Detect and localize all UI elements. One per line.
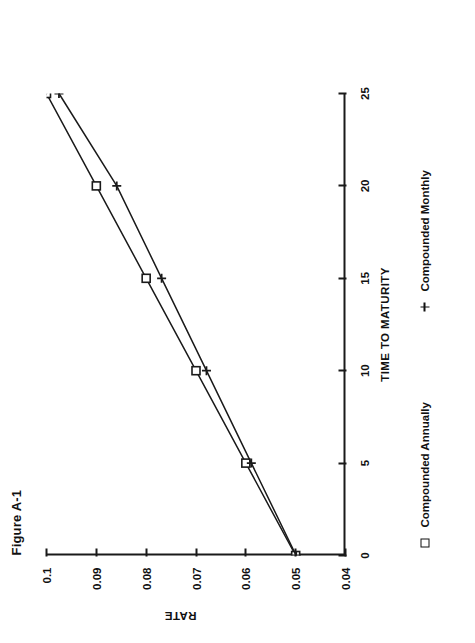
plot-area: 05101520250.040.050.060.070.080.090.1 bbox=[46, 93, 345, 555]
x-axis-tick-label: 0 bbox=[358, 552, 370, 558]
y-axis-tick-label: 0.04 bbox=[339, 567, 351, 589]
square-marker-icon bbox=[142, 274, 150, 282]
y-axis-tick bbox=[195, 548, 197, 556]
y-axis-tick bbox=[45, 548, 47, 556]
y-axis-title: RATE bbox=[164, 609, 196, 621]
legend-label-annual: Compounded Annually bbox=[418, 402, 430, 527]
x-axis-tick-label: 20 bbox=[358, 179, 370, 192]
y-axis-tick-label: 0.1 bbox=[40, 567, 52, 583]
y-axis-tick-label: 0.09 bbox=[90, 567, 102, 589]
square-marker-icon bbox=[420, 538, 429, 547]
x-axis-tick bbox=[338, 369, 346, 371]
x-axis-tick-label: 15 bbox=[358, 271, 370, 284]
series-line bbox=[58, 93, 295, 555]
x-axis-tick-label: 5 bbox=[358, 459, 370, 465]
plus-marker-icon bbox=[420, 302, 429, 311]
square-marker-icon bbox=[92, 181, 100, 189]
y-axis-tick bbox=[95, 548, 97, 556]
x-axis-tick bbox=[338, 184, 346, 186]
page-title: Figure A-1 bbox=[8, 489, 23, 555]
y-axis-tick-label: 0.08 bbox=[140, 567, 152, 589]
plus-marker-icon bbox=[157, 273, 166, 282]
figure-stage: Figure A-1 05101520250.040.050.060.070.0… bbox=[0, 0, 475, 643]
y-axis-tick-label: 0.06 bbox=[239, 567, 251, 589]
y-axis-tick bbox=[294, 548, 296, 556]
x-axis-tick-label: 25 bbox=[358, 87, 370, 100]
y-axis-tick-label: 0.07 bbox=[190, 567, 202, 589]
square-marker-icon bbox=[192, 366, 200, 374]
x-axis-tick-label: 10 bbox=[358, 364, 370, 377]
x-axis-tick bbox=[338, 462, 346, 464]
y-axis-tick-label: 0.05 bbox=[289, 567, 301, 589]
y-axis-tick bbox=[344, 548, 346, 556]
legend-item-compounded-annually: Compounded Annually bbox=[418, 402, 430, 547]
x-axis-title: TIME TO MATURITY bbox=[378, 267, 390, 382]
x-axis-tick bbox=[338, 92, 346, 94]
x-axis-tick bbox=[338, 277, 346, 279]
legend-item-compounded-monthly: Compounded Monthly bbox=[418, 170, 430, 311]
series-line bbox=[46, 93, 295, 555]
plus-marker-icon bbox=[112, 181, 121, 190]
plus-marker-icon bbox=[201, 366, 210, 375]
y-axis-tick bbox=[244, 548, 246, 556]
legend-label-monthly: Compounded Monthly bbox=[418, 170, 430, 291]
square-marker-icon bbox=[46, 93, 50, 97]
y-axis-tick bbox=[145, 548, 147, 556]
data-series-layer bbox=[46, 93, 345, 555]
